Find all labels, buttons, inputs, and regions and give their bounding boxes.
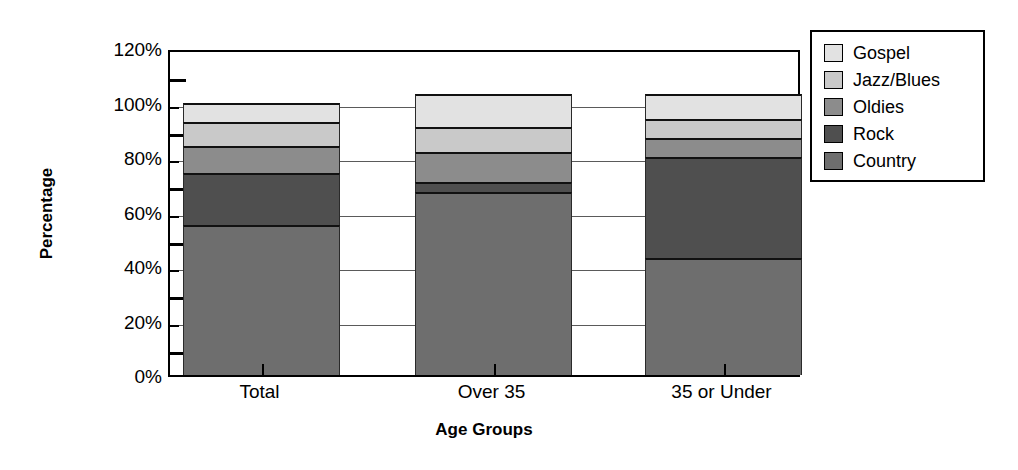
y-axis-tick-label: 120% bbox=[84, 39, 162, 61]
bar-segment[interactable] bbox=[645, 258, 802, 375]
bar-segment[interactable] bbox=[183, 103, 340, 122]
bar-segment[interactable] bbox=[415, 152, 572, 182]
y-axis-tick-label: 20% bbox=[84, 312, 162, 334]
x-axis-tick-label: 35 or Under bbox=[671, 381, 771, 403]
bar-segment[interactable] bbox=[645, 94, 802, 119]
bar-segment[interactable] bbox=[183, 173, 340, 225]
legend-item[interactable]: Rock bbox=[824, 121, 983, 147]
legend-swatch-icon bbox=[824, 125, 843, 143]
x-axis-tick-labels: TotalOver 3535 or Under bbox=[168, 381, 800, 407]
legend-item-label: Jazz/Blues bbox=[853, 71, 940, 89]
x-axis-tick-label: Over 35 bbox=[458, 381, 526, 403]
legend: GospelJazz/BluesOldiesRockCountry bbox=[810, 30, 985, 182]
bar-segment[interactable] bbox=[645, 157, 802, 258]
y-axis-tick-label: 100% bbox=[84, 94, 162, 116]
stacked-bar-chart-figure: Percentage 0%20%40%60%80%100%120% TotalO… bbox=[0, 0, 1018, 470]
plot-area bbox=[168, 50, 800, 377]
y-axis-major-tick bbox=[170, 216, 179, 218]
bar-segment[interactable] bbox=[183, 122, 340, 147]
bar-segment[interactable] bbox=[415, 127, 572, 152]
x-axis-tick-label: Total bbox=[239, 381, 279, 403]
legend-item-label: Gospel bbox=[853, 44, 910, 62]
legend-item-label: Country bbox=[853, 152, 916, 170]
y-axis-tick-label: 40% bbox=[84, 257, 162, 279]
legend-item[interactable]: Gospel bbox=[824, 40, 983, 66]
bar-stack[interactable] bbox=[415, 48, 572, 375]
x-axis-tick bbox=[262, 364, 264, 375]
bar-segment[interactable] bbox=[645, 138, 802, 157]
y-axis-tick-label: 60% bbox=[84, 203, 162, 225]
y-axis-major-tick bbox=[170, 107, 179, 109]
y-axis-major-tick bbox=[170, 270, 179, 272]
x-axis-tick bbox=[724, 364, 726, 375]
legend-item[interactable]: Jazz/Blues bbox=[824, 67, 983, 93]
y-axis-title-container: Percentage bbox=[36, 50, 58, 377]
y-axis-tick-label: 80% bbox=[84, 148, 162, 170]
legend-swatch-icon bbox=[824, 44, 843, 62]
bar-segment[interactable] bbox=[415, 94, 572, 127]
y-axis-tick-labels: 0%20%40%60%80%100%120% bbox=[84, 50, 162, 377]
bar-stack[interactable] bbox=[645, 48, 802, 375]
legend-swatch-icon bbox=[824, 71, 843, 89]
bar-segment[interactable] bbox=[415, 192, 572, 375]
legend-swatch-icon bbox=[824, 98, 843, 116]
bar-segment[interactable] bbox=[645, 119, 802, 138]
bar-segment[interactable] bbox=[415, 182, 572, 193]
legend-item[interactable]: Oldies bbox=[824, 94, 983, 120]
x-axis-title: Age Groups bbox=[168, 420, 800, 440]
bar-segment[interactable] bbox=[183, 146, 340, 173]
bar-stack[interactable] bbox=[183, 48, 340, 375]
y-axis-major-tick bbox=[170, 161, 179, 163]
legend-item-label: Rock bbox=[853, 125, 894, 143]
y-axis-tick-label: 0% bbox=[84, 366, 162, 388]
bar-segment[interactable] bbox=[183, 225, 340, 375]
y-axis-title: Percentage bbox=[36, 50, 58, 377]
y-axis-major-tick bbox=[170, 325, 179, 327]
legend-swatch-icon bbox=[824, 152, 843, 170]
x-axis-tick bbox=[494, 364, 496, 375]
legend-item-label: Oldies bbox=[853, 98, 904, 116]
legend-item[interactable]: Country bbox=[824, 148, 983, 174]
